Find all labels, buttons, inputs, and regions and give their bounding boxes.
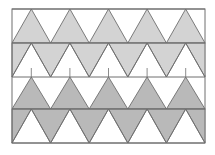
row-2-triangle xyxy=(31,43,70,77)
tessellation-canvas xyxy=(0,0,215,155)
triangle-tessellation-diagram xyxy=(0,0,215,155)
right-margin xyxy=(206,0,215,155)
row-2-triangle xyxy=(109,43,148,77)
row-4-triangle xyxy=(109,109,148,143)
row-3-triangle xyxy=(166,77,205,109)
row-4-triangle xyxy=(147,109,186,143)
row-1-triangle xyxy=(51,9,90,43)
row-3-triangle xyxy=(51,77,90,109)
row-1-triangle xyxy=(12,9,51,43)
row-4-triangle xyxy=(70,109,109,143)
row-3-triangle xyxy=(12,77,51,109)
row-2-triangle xyxy=(147,43,186,77)
row-4-triangle xyxy=(31,109,70,143)
row-2-triangle xyxy=(70,43,109,77)
row-3-triangle xyxy=(128,77,167,109)
row-1-triangle xyxy=(89,9,128,43)
row-3-triangle xyxy=(89,77,128,109)
row-1-triangle xyxy=(166,9,205,43)
row-1-triangle xyxy=(128,9,167,43)
